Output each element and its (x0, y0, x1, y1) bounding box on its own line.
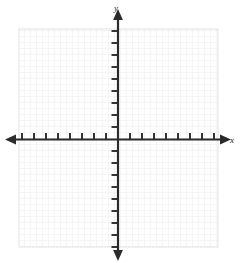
x-axis-arrow-left (5, 135, 16, 145)
coordinate-plane-figure: y x (0, 0, 240, 263)
y-axis-arrow-down (113, 250, 123, 261)
plot-svg: y x (0, 0, 240, 263)
x-axis-label: x (229, 135, 234, 145)
y-axis-label: y (113, 3, 118, 13)
